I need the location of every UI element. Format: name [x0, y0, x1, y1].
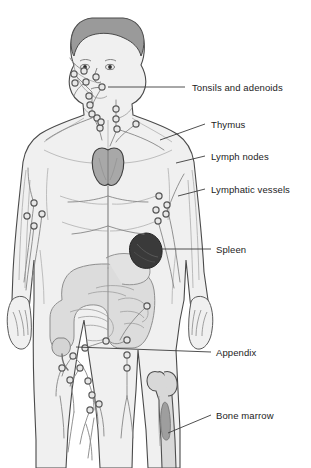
- spleen-organ: [129, 233, 162, 268]
- lymph-node: [153, 207, 159, 213]
- lymph-node: [98, 119, 104, 125]
- lymph-node: [67, 377, 73, 383]
- lymph-node: [133, 121, 139, 127]
- lymph-node: [31, 200, 37, 206]
- lymphatic-system-illustration: Tonsils and adenoidsThymusLymph nodesLym…: [0, 0, 311, 468]
- lymph-node: [89, 392, 95, 398]
- lymph-node: [39, 211, 45, 217]
- lymph-node: [93, 74, 99, 80]
- lymph-node: [97, 125, 103, 131]
- lymph-node: [70, 353, 76, 359]
- lymph-node: [85, 378, 91, 384]
- label-tonsils: Tonsils and adenoids: [192, 83, 283, 93]
- lymph-node: [114, 126, 120, 132]
- label-thymus: Thymus: [211, 120, 245, 130]
- lymph-node: [124, 352, 130, 358]
- label-marrow: Bone marrow: [216, 411, 274, 421]
- lymph-node: [164, 202, 170, 208]
- lymph-node: [163, 211, 169, 217]
- label-vessels: Lymphatic vessels: [211, 185, 290, 195]
- lymph-node: [99, 84, 105, 90]
- lymph-node: [59, 365, 65, 371]
- thymus-organ: [92, 148, 124, 185]
- anatomy-drawing: [0, 0, 311, 468]
- lymph-node: [31, 223, 37, 229]
- body-silhouette: [12, 18, 208, 468]
- lymph-node: [72, 80, 78, 86]
- lymph-node: [155, 218, 161, 224]
- lymph-node: [77, 365, 83, 371]
- lymph-node: [87, 407, 93, 413]
- lymph-node: [24, 213, 30, 219]
- lymph-node: [103, 338, 109, 344]
- lymph-node: [156, 193, 162, 199]
- lymph-node: [144, 303, 150, 309]
- lymph-node: [124, 365, 130, 371]
- label-nodes: Lymph nodes: [211, 152, 269, 162]
- lymph-node: [71, 71, 77, 77]
- lymph-node: [81, 68, 87, 74]
- lymph-node: [82, 345, 88, 351]
- lymph-node: [86, 93, 92, 99]
- lymph-node: [87, 102, 93, 108]
- label-spleen: Spleen: [216, 245, 246, 255]
- label-appendix: Appendix: [216, 348, 256, 358]
- lymph-node: [113, 106, 119, 112]
- lymph-node: [96, 401, 102, 407]
- lymph-node: [113, 116, 119, 122]
- lymph-node: [83, 79, 89, 85]
- lymph-node: [124, 337, 130, 343]
